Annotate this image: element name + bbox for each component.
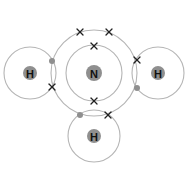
ammonia-dot-cross-diagram: NHHH	[0, 0, 185, 169]
dot-electron-icon	[77, 112, 83, 118]
dot-electron-icon	[134, 85, 140, 91]
atom-label-h-bottom: H	[90, 131, 98, 143]
cross-electron-icon	[49, 84, 55, 90]
atom-label-n: N	[90, 68, 98, 80]
dot-electron-icon	[49, 58, 55, 64]
nuclei: NHHH	[23, 65, 165, 143]
atom-label-h-right: H	[154, 68, 162, 80]
atom-label-h-left: H	[26, 68, 34, 80]
cross-electron-icon	[91, 43, 97, 49]
